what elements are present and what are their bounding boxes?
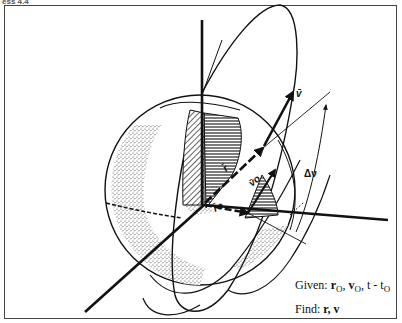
given-t-sub: O: [384, 284, 391, 294]
given-text: Given: rO, vO, t - tO: [295, 278, 390, 294]
given-prefix: Given:: [295, 278, 328, 292]
label-v: v̄: [296, 88, 303, 99]
find-value: r, v: [323, 302, 339, 316]
orbit-diagram: v̄ r̄ v̄o r̄o Δν: [0, 0, 402, 323]
find-prefix: Find:: [295, 302, 320, 316]
node-line: [202, 40, 222, 95]
label-delta-nu: Δν: [304, 168, 317, 179]
given-r0-sub: O: [336, 284, 343, 294]
find-text: Find: r, v: [295, 302, 340, 317]
r-direction-line: [263, 92, 330, 148]
given-t: , t - t: [361, 278, 384, 292]
